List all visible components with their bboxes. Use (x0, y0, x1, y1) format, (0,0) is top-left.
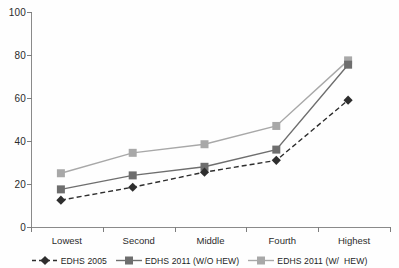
legend-square-icon (116, 255, 142, 266)
x-tick-label: Fourth (269, 235, 296, 246)
chart-legend: EDHS 2005EDHS 2011 (W/O HEW)EDHS 2011 (W… (0, 255, 399, 266)
data-point-marker (272, 122, 280, 130)
x-tick-label: Middle (197, 235, 225, 246)
data-point-marker (201, 140, 209, 148)
legend-label: EDHS 2011 (W/ HEW) (277, 256, 367, 266)
data-point-marker (272, 146, 280, 154)
legend-diamond-icon (32, 255, 58, 266)
legend-item[interactable]: EDHS 2011 (W/ HEW) (248, 255, 367, 266)
x-tick-label: Highest (338, 235, 370, 246)
legend-item[interactable]: EDHS 2005 (32, 255, 107, 266)
x-tick-label: Second (123, 235, 155, 246)
data-point-marker (129, 149, 137, 157)
legend-label: EDHS 2005 (61, 256, 107, 266)
data-point-marker (128, 183, 137, 192)
data-point-marker (344, 61, 352, 69)
data-point-marker (57, 185, 65, 193)
data-point-marker (57, 169, 65, 177)
series-lines-and-markers (0, 0, 399, 240)
data-point-marker (129, 171, 137, 179)
x-tick-label: Lowest (52, 235, 82, 246)
legend-label: EDHS 2011 (W/O HEW) (145, 256, 239, 266)
data-point-marker (272, 156, 281, 165)
legend-item[interactable]: EDHS 2011 (W/O HEW) (116, 255, 239, 266)
series-line (61, 60, 348, 173)
data-point-marker (56, 196, 65, 205)
legend-square-icon (248, 255, 274, 266)
line-chart: 020406080100 LowestSecondMiddleFourthHig… (0, 0, 399, 268)
plot-area: 020406080100 LowestSecondMiddleFourthHig… (0, 0, 399, 240)
